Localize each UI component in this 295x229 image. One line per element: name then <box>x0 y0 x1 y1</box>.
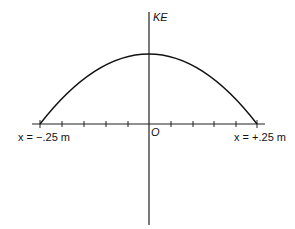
origin-label: O <box>151 126 160 138</box>
ke-axis-label: KE <box>153 11 168 23</box>
ke-diagram <box>0 0 295 229</box>
left-endpoint-label: x = −.25 m <box>18 131 70 143</box>
right-endpoint-label: x = +.25 m <box>234 131 286 143</box>
